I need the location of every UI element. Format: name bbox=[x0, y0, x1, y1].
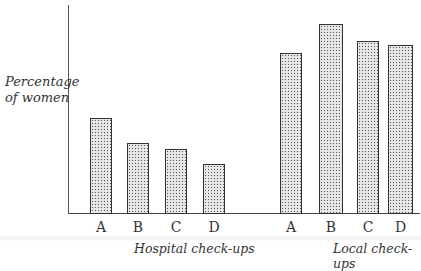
x-tick-label: C bbox=[357, 219, 379, 235]
bar-local-b bbox=[319, 24, 343, 214]
bar-hospital-c bbox=[165, 149, 187, 214]
y-axis-label-line-2: of women bbox=[5, 90, 79, 106]
group-label-hospital: Hospital check-ups bbox=[134, 241, 255, 256]
x-tick-label: D bbox=[390, 219, 412, 235]
x-tick-label: A bbox=[280, 219, 302, 235]
y-axis bbox=[68, 5, 69, 214]
bar-local-d bbox=[388, 45, 413, 214]
bar-local-c bbox=[357, 41, 379, 214]
x-tick-label: B bbox=[127, 219, 149, 235]
x-tick-label: B bbox=[320, 219, 342, 235]
bar-local-a bbox=[280, 53, 302, 214]
x-tick-label: D bbox=[203, 219, 225, 235]
bar-hospital-d bbox=[203, 164, 225, 214]
bar-hospital-a bbox=[90, 118, 112, 214]
y-axis-label-line-1: Percentage bbox=[5, 74, 79, 90]
bar-hospital-b bbox=[127, 143, 149, 214]
x-tick-label: C bbox=[165, 219, 187, 235]
y-axis-label: Percentage of women bbox=[5, 74, 79, 106]
x-tick-label: A bbox=[90, 219, 112, 235]
group-label-local: Local check-ups bbox=[333, 241, 421, 271]
